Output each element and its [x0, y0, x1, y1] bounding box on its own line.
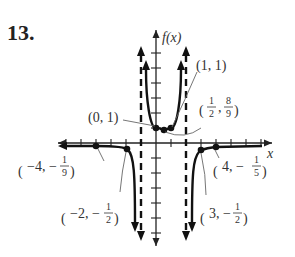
- svg-text:2: 2: [209, 108, 214, 119]
- svg-text:): ): [234, 103, 239, 119]
- label-point-4: ( 4, − 1 5 ): [213, 154, 267, 180]
- svg-text:): ): [114, 211, 119, 227]
- label-point-neg4: ( −4, − 1 9 ): [18, 154, 75, 180]
- label-point-1-1: (1, 1): [196, 58, 227, 74]
- leader-lines: [98, 72, 219, 195]
- y-axis: [151, 30, 161, 246]
- x-axis-label: x: [266, 146, 274, 161]
- svg-text:1: 1: [209, 95, 214, 106]
- svg-text:4, −: 4, −: [222, 159, 244, 174]
- label-point-half-8-9: ( 1 2 , 8 9 ): [199, 95, 239, 119]
- svg-text:−2, −: −2, −: [70, 206, 100, 221]
- svg-text:,: ,: [218, 100, 222, 115]
- function-graph: f(x) x (0, 1) (1, 1) ( 1 2 , 8 9 ) ( −4,…: [0, 0, 295, 257]
- label-point-3: ( 3, − 1 2 ): [200, 201, 248, 227]
- svg-text:9: 9: [62, 167, 67, 178]
- svg-text:(: (: [200, 211, 205, 227]
- svg-text:−4, −: −4, −: [27, 159, 57, 174]
- y-axis-label: f(x): [162, 30, 182, 46]
- svg-text:5: 5: [254, 167, 259, 178]
- svg-text:(: (: [213, 164, 218, 180]
- svg-text:8: 8: [226, 95, 231, 106]
- svg-text:2: 2: [106, 214, 111, 225]
- svg-text:1: 1: [62, 154, 67, 165]
- label-point-0-1: (0, 1): [88, 110, 119, 126]
- label-point-neg2: ( −2, − 1 2 ): [61, 201, 119, 227]
- svg-text:9: 9: [226, 108, 231, 119]
- svg-text:1: 1: [254, 154, 259, 165]
- curve-middle: [142, 60, 185, 130]
- svg-text:1: 1: [106, 201, 111, 212]
- svg-text:(: (: [61, 211, 66, 227]
- svg-text:): ): [243, 211, 248, 227]
- svg-text:2: 2: [235, 214, 240, 225]
- svg-text:3, −: 3, −: [209, 206, 231, 221]
- svg-text:(: (: [199, 103, 204, 119]
- svg-text:): ): [70, 164, 75, 180]
- svg-text:1: 1: [235, 201, 240, 212]
- svg-text:): ): [262, 164, 267, 180]
- svg-text:(: (: [18, 164, 23, 180]
